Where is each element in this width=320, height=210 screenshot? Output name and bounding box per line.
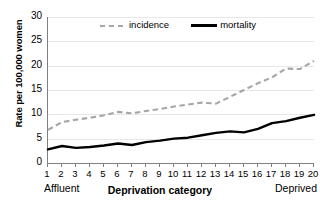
x-tick-mark — [271, 163, 272, 167]
x-tick-mark — [201, 163, 202, 167]
x-tick-mark — [243, 163, 244, 167]
x-tick-mark — [131, 163, 132, 167]
legend-item-mortality: mortality — [191, 20, 256, 30]
x-tick-mark — [299, 163, 300, 167]
legend-label-incidence: incidence — [129, 20, 169, 30]
x-axis-title: Deprivation category — [0, 184, 320, 196]
x-tick-mark — [173, 163, 174, 167]
y-tick-label: 20 — [18, 60, 42, 70]
series-lines — [48, 17, 314, 163]
x-tick-mark — [89, 163, 90, 167]
x-tick-mark — [257, 163, 258, 167]
solid-line-swatch-icon — [191, 24, 217, 27]
x-tick-label: 20 — [302, 168, 320, 180]
x-tick-mark — [187, 163, 188, 167]
chart-legend: incidence mortality — [100, 17, 256, 33]
legend-item-incidence: incidence — [100, 20, 169, 30]
y-tick-label: 10 — [18, 108, 42, 118]
y-tick-label: 30 — [18, 11, 42, 21]
x-tick-mark — [47, 163, 48, 167]
x-tick-mark — [229, 163, 230, 167]
dashed-line-swatch-icon — [100, 24, 126, 27]
legend-label-mortality: mortality — [220, 20, 256, 30]
x-tick-mark — [215, 163, 216, 167]
y-tick-label: 15 — [18, 84, 42, 94]
line-mortality — [48, 115, 314, 150]
chart-figure: Rate per 100,000 women 051015202530 1234… — [0, 0, 320, 210]
y-tick-label: 25 — [18, 35, 42, 45]
y-tick-label: 5 — [18, 133, 42, 143]
x-tick-mark — [159, 163, 160, 167]
x-tick-mark — [285, 163, 286, 167]
line-incidence — [48, 61, 314, 130]
x-tick-mark — [75, 163, 76, 167]
x-axis-tick-labels: 1234567891011121314151617181920 — [47, 168, 313, 181]
y-tick-label: 0 — [18, 157, 42, 167]
plot-area — [47, 17, 314, 164]
x-tick-mark — [145, 163, 146, 167]
x-tick-mark — [61, 163, 62, 167]
x-tick-mark — [117, 163, 118, 167]
x-tick-mark — [103, 163, 104, 167]
x-axis-right-end-label: Deprived — [275, 182, 317, 194]
x-tick-mark — [313, 163, 314, 167]
